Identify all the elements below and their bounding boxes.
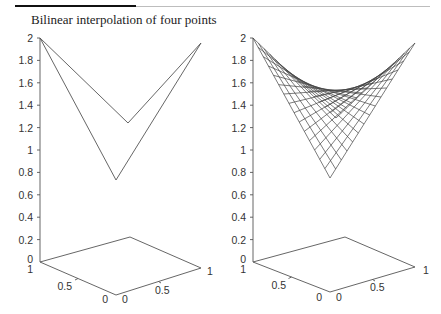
svg-text:1: 1	[240, 144, 246, 156]
svg-text:1: 1	[27, 144, 33, 156]
left-plot	[37, 38, 201, 295]
left-edge-upper	[40, 38, 201, 123]
svg-text:1: 1	[207, 265, 213, 277]
svg-text:0.5: 0.5	[271, 279, 286, 291]
svg-text:1.6: 1.6	[231, 77, 246, 89]
svg-text:1.4: 1.4	[231, 99, 246, 111]
figure-canvas: 2 1.8 1.6 1.4 1.2 1 0.8 0.6 0.4 0.2 0 1 …	[0, 0, 441, 314]
svg-text:1.8: 1.8	[231, 54, 246, 66]
svg-text:0.4: 0.4	[18, 211, 33, 223]
svg-text:1.2: 1.2	[18, 122, 33, 134]
svg-text:1.8: 1.8	[18, 54, 33, 66]
svg-text:0.5: 0.5	[155, 284, 170, 296]
svg-text:0.6: 0.6	[18, 189, 33, 201]
right-plot	[250, 38, 415, 292]
svg-text:0: 0	[316, 291, 322, 303]
svg-text:2: 2	[240, 32, 246, 44]
left-edge-lower	[40, 38, 201, 180]
svg-text:1.4: 1.4	[18, 99, 33, 111]
svg-text:0.2: 0.2	[18, 234, 33, 246]
svg-text:0: 0	[122, 293, 128, 305]
left-x-labels: 0 0.5 1	[122, 265, 213, 305]
svg-text:1.2: 1.2	[231, 122, 246, 134]
right-surface-mesh	[253, 38, 415, 178]
svg-text:0.8: 0.8	[231, 166, 246, 178]
svg-text:1: 1	[27, 263, 33, 275]
svg-text:1: 1	[423, 264, 429, 276]
svg-text:2: 2	[27, 32, 33, 44]
right-x-labels: 0 0.5 1	[336, 264, 429, 303]
svg-text:0.4: 0.4	[231, 211, 246, 223]
svg-text:0.5: 0.5	[57, 280, 72, 292]
svg-text:0.6: 0.6	[231, 189, 246, 201]
svg-text:1.6: 1.6	[18, 77, 33, 89]
svg-text:0.2: 0.2	[231, 234, 246, 246]
svg-text:0.8: 0.8	[18, 166, 33, 178]
svg-text:0: 0	[336, 291, 342, 303]
svg-text:0: 0	[102, 293, 108, 305]
svg-text:0.5: 0.5	[370, 281, 385, 293]
svg-text:1: 1	[240, 263, 246, 275]
left-z-labels: 2 1.8 1.6 1.4 1.2 1 0.8 0.6 0.4 0.2 0 1 …	[18, 32, 108, 305]
